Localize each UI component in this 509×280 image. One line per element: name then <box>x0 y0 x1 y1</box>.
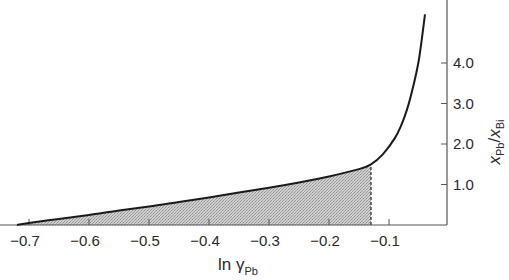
x-tick-label: −0.7 <box>10 232 40 249</box>
x-tick-label: −0.5 <box>130 232 160 249</box>
y-tick-label: 4.0 <box>453 54 474 71</box>
chart: −0.7−0.6−0.5−0.4−0.3−0.2−0.11.02.03.04.0… <box>0 0 509 280</box>
y-tick-label: 2.0 <box>453 135 474 152</box>
x-axis-title: ln γPb <box>218 255 258 277</box>
x-tick-label: −0.4 <box>190 232 220 249</box>
shaded-region <box>17 164 371 225</box>
x-tick-label: −0.2 <box>310 232 340 249</box>
x-tick-label: −0.6 <box>70 232 100 249</box>
shaded-area <box>17 164 371 225</box>
x-tick-label: −0.3 <box>250 232 280 249</box>
y-axis-title: xPb/xBi <box>485 120 506 166</box>
axes <box>0 0 447 225</box>
x-tick-label: −0.1 <box>370 232 400 249</box>
y-tick-label: 1.0 <box>453 176 474 193</box>
y-tick-label: 3.0 <box>453 95 474 112</box>
